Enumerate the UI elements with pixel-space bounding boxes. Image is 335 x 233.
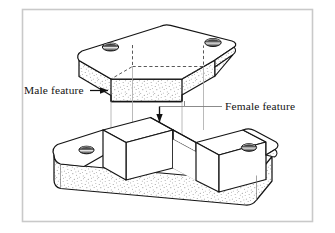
assembly-drawing-canvas: Male feature Female feature	[0, 0, 335, 233]
male-feature-label: Male feature	[24, 84, 84, 96]
upper-plate-hole-left	[102, 43, 118, 51]
technical-illustration-figure: Male feature Female feature	[0, 0, 335, 233]
lower-block-hole-right	[241, 144, 256, 152]
female-feature-label: Female feature	[225, 100, 295, 112]
upper-plate-hole-right	[205, 39, 221, 47]
lower-block-hole-left	[79, 146, 94, 154]
